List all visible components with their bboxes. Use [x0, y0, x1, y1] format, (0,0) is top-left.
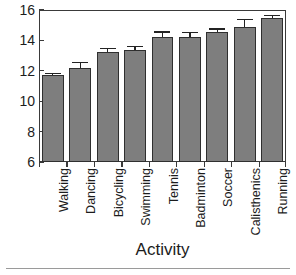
y-axis-tick-label: 12 [19, 64, 39, 78]
bar [69, 68, 91, 162]
bar [124, 50, 146, 162]
error-bar-cap [100, 48, 116, 49]
bar [234, 27, 256, 162]
x-axis-tick-mark [121, 162, 122, 167]
error-bar-cap [237, 19, 253, 20]
x-axis-tick-mark [66, 162, 67, 167]
y-axis-tick-label: 6 [27, 155, 39, 169]
y-axis-tick-label: 8 [27, 125, 39, 139]
bars-layer [39, 10, 286, 162]
x-axis-tick-labels: WalkingDancingBicyclingSwimmingTennisBad… [39, 168, 286, 238]
bar-group [206, 10, 228, 162]
footer-divider [6, 268, 290, 269]
x-axis-tick-label: Swimming [140, 168, 153, 226]
y-axis-tick-label: 16 [19, 3, 39, 17]
error-bar-cap [264, 15, 280, 16]
error-bar-cap [127, 46, 143, 47]
bar [179, 37, 201, 162]
error-bar-cap [72, 62, 88, 63]
bar-group [42, 10, 64, 162]
bar [206, 32, 228, 162]
y-axis-tick-label: 10 [19, 94, 39, 108]
error-bar-cap [154, 31, 170, 32]
bar-group [261, 10, 283, 162]
bar-group [97, 10, 119, 162]
x-axis-tick-label: Running [277, 168, 290, 215]
error-bar-cap [182, 32, 198, 33]
x-axis-tick-label: Dancing [85, 168, 98, 214]
x-axis-tick-mark [285, 162, 286, 167]
bar-group [69, 10, 91, 162]
x-axis-tick-mark [39, 162, 40, 167]
x-axis-tick-mark [94, 162, 95, 167]
y-axis: 6810121416 [0, 0, 39, 275]
x-axis-tick-mark [149, 162, 150, 167]
x-axis-tick-label: Walking [58, 168, 71, 212]
bar-group [152, 10, 174, 162]
x-axis-tick-label: Badminton [195, 168, 208, 228]
bar [97, 52, 119, 162]
bar-chart-figure: 6810121416 WalkingDancingBicyclingSwimmi… [0, 0, 296, 275]
bar-group [234, 10, 256, 162]
bar [42, 75, 64, 162]
x-axis-title: Activity [39, 240, 286, 260]
x-axis-tick-label: Bicycling [113, 168, 126, 217]
y-axis-tick-label: 14 [19, 33, 39, 47]
bar-group [179, 10, 201, 162]
bar-group [124, 10, 146, 162]
x-axis-tick-label: Tennis [168, 168, 181, 204]
bar [261, 18, 283, 162]
x-axis-tick-label: Calisthenics [250, 168, 263, 235]
x-axis-tick-label: Soccer [222, 168, 235, 207]
error-bar-cap [45, 73, 61, 74]
bar [152, 37, 174, 162]
x-axis-tick-mark [204, 162, 205, 167]
error-bar-cap [209, 28, 225, 29]
x-axis-tick-mark [231, 162, 232, 167]
x-axis-tick-mark [176, 162, 177, 167]
x-axis-tick-mark [259, 162, 260, 167]
